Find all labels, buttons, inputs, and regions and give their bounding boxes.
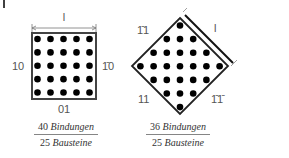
lattice-dot (177, 22, 184, 29)
lattice-dot (177, 104, 184, 111)
lattice-dot (73, 36, 80, 43)
lattice-dot (164, 36, 171, 43)
lattice-dot (164, 90, 171, 97)
lattice-dot (60, 89, 67, 96)
square-dimension-label: l (63, 11, 65, 23)
lattice-dot (86, 49, 93, 56)
lattice-dot (86, 36, 93, 43)
diamond-caption-numerator: 36 Bindungen (150, 121, 206, 132)
lattice-dot (47, 36, 54, 43)
lattice-dot (203, 63, 210, 70)
lattice-dot (47, 89, 54, 96)
lattice-dot (203, 49, 210, 56)
diamond-bottom-right-label: 1̄1̄ (211, 93, 225, 105)
lattice-dot (203, 77, 210, 84)
square-figure: l 10 1̄0 01 40 Bindungen 25 Bausteine (12, 11, 114, 148)
square-caption-denominator: 25 Bausteine (40, 137, 92, 148)
lattice-dot (86, 62, 93, 69)
square-caption-numerator: 40 Bindungen (38, 121, 94, 132)
lattice-dot (150, 49, 157, 56)
lattice-dot (190, 77, 197, 84)
lattice-dot (137, 63, 144, 70)
lattice-dot (177, 63, 184, 70)
lattice-dot (60, 49, 67, 56)
lattice-dot (190, 63, 197, 70)
square-dot-grid (34, 36, 93, 96)
lattice-dot (34, 49, 41, 56)
lattice-dot (164, 77, 171, 84)
diamond-caption-denominator: 25 Bausteine (152, 137, 204, 148)
square-dimension-arrow (32, 24, 96, 32)
lattice-dot (216, 63, 223, 70)
square-right-label: 1̄0 (102, 60, 114, 72)
lattice-dot (86, 76, 93, 83)
lattice-dot (34, 89, 41, 96)
diamond-figure: l 1̄1 11 1̄1̄ 36 Bindungen 25 Bausteine (132, 8, 237, 148)
diamond-dimension-label: l (214, 22, 216, 34)
lattice-dot (164, 49, 171, 56)
lattice-dot (73, 89, 80, 96)
lattice-dot (73, 49, 80, 56)
lattice-dot (60, 76, 67, 83)
lattice-dot (164, 63, 171, 70)
lattice-dot (47, 62, 54, 69)
lattice-dot (150, 63, 157, 70)
lattice-dot (34, 76, 41, 83)
lattice-dot (73, 62, 80, 69)
lattice-dot (34, 62, 41, 69)
lattice-dot (150, 77, 157, 84)
lattice-dot (177, 36, 184, 43)
lattice-dot (190, 90, 197, 97)
square-caption: 40 Bindungen 25 Bausteine (34, 121, 98, 148)
lattice-dot (73, 76, 80, 83)
lattice-dot (190, 49, 197, 56)
lattice-dot (60, 36, 67, 43)
lattice-dot (86, 89, 93, 96)
lattice-dot (47, 76, 54, 83)
diamond-caption: 36 Bindungen 25 Bausteine (146, 121, 210, 148)
diamond-bottom-left-label: 11 (138, 93, 149, 105)
lattice-diagram: l 10 1̄0 01 40 Bindungen 25 Bausteine (0, 0, 289, 158)
square-left-label: 10 (12, 60, 24, 72)
lattice-dot (60, 62, 67, 69)
lattice-dot (47, 49, 54, 56)
diamond-top-left-label: 1̄1 (137, 24, 149, 36)
lattice-dot (177, 90, 184, 97)
lattice-dot (190, 36, 197, 43)
lattice-dot (34, 36, 41, 43)
lattice-dot (177, 49, 184, 56)
square-bottom-label: 01 (58, 103, 70, 115)
lattice-dot (177, 77, 184, 84)
